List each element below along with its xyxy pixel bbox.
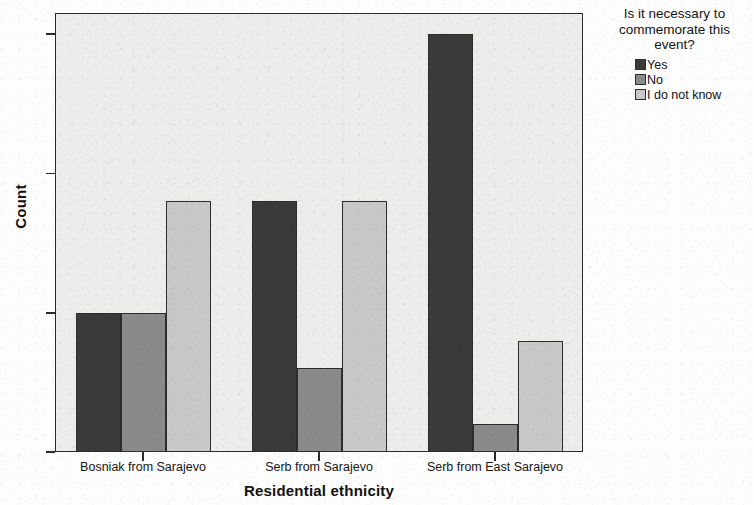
- legend-swatch: [635, 59, 646, 70]
- legend-title: Is it necessary tocommemorate thisevent?: [595, 6, 754, 53]
- x-category-label: Serb from Sarajevo: [229, 460, 409, 474]
- legend: Is it necessary tocommemorate thisevent?…: [595, 6, 754, 103]
- bar-chart: Count 051015 Bosniak from SarajevoSerb f…: [0, 0, 754, 505]
- legend-swatch: [635, 89, 646, 100]
- x-category-label: Bosniak from Sarajevo: [53, 460, 233, 474]
- legend-item: I do not know: [635, 88, 754, 102]
- bar: [518, 341, 563, 452]
- legend-swatch: [635, 74, 646, 85]
- bar: [473, 424, 518, 452]
- bar: [342, 201, 387, 452]
- bar: [252, 201, 297, 452]
- legend-title-line: commemorate this: [595, 22, 754, 38]
- legend-label: No: [647, 73, 663, 87]
- bar: [166, 201, 211, 452]
- legend-item: Yes: [635, 58, 754, 72]
- legend-label: Yes: [647, 58, 667, 72]
- x-axis-title: Residential ethnicity: [55, 482, 583, 499]
- bar: [297, 368, 342, 452]
- x-category-label: Serb from East Sarajevo: [405, 460, 585, 474]
- legend-item: No: [635, 73, 754, 87]
- legend-title-line: event?: [595, 37, 754, 53]
- legend-title-line: Is it necessary to: [595, 6, 754, 22]
- bar: [428, 34, 473, 452]
- bar: [76, 313, 121, 452]
- legend-label: I do not know: [647, 88, 721, 102]
- legend-items: YesNoI do not know: [595, 58, 754, 102]
- bar: [121, 313, 166, 452]
